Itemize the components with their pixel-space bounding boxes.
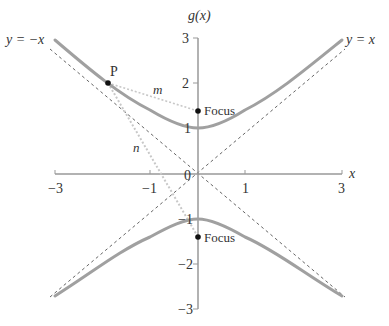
y-tick-label: 1 [184, 121, 191, 136]
point-p [105, 80, 111, 86]
y-tick-label: −1 [178, 212, 193, 227]
x-tick-label: −1 [142, 181, 157, 196]
x-axis-label: x [348, 166, 356, 181]
y-tick-label: 2 [182, 76, 189, 91]
x-tick-label: 1 [242, 181, 249, 196]
origin-label: 0 [184, 168, 191, 183]
asymptote-neg-label: y = −x [4, 32, 45, 47]
asymptote-pos-label: y = x [344, 32, 376, 47]
y-tick-label: −3 [178, 302, 193, 317]
hyperbola-diagram: g(x) x y = −x y = x P Focus Focus m n −3… [0, 0, 389, 326]
lower-focus-label: Focus [204, 230, 235, 245]
segment-n-label: n [133, 140, 140, 155]
y-axis-label: g(x) [188, 8, 211, 24]
y-tick-label: −2 [178, 257, 193, 272]
upper-focus-point [195, 108, 201, 114]
x-tick-label: −3 [48, 181, 63, 196]
lower-focus-point [195, 234, 201, 240]
point-p-label: P [110, 64, 118, 79]
upper-focus-label: Focus [204, 103, 235, 118]
x-tick-label: 3 [338, 181, 345, 196]
segment-m-label: m [153, 82, 162, 97]
y-tick-label: 3 [182, 31, 189, 46]
